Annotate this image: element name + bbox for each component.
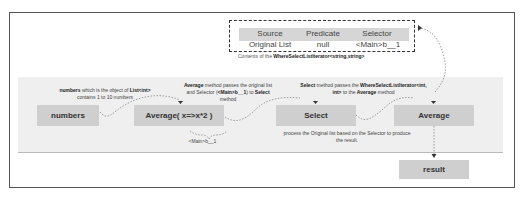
connector-lines bbox=[0, 0, 530, 201]
arrow-head-select-icon bbox=[313, 101, 318, 104]
arrow-head-average-icon bbox=[178, 101, 183, 104]
arrow-head-average2-icon bbox=[431, 101, 436, 104]
arrow-head-result-icon bbox=[432, 154, 437, 158]
arrow-head-iterator-icon bbox=[418, 25, 422, 31]
